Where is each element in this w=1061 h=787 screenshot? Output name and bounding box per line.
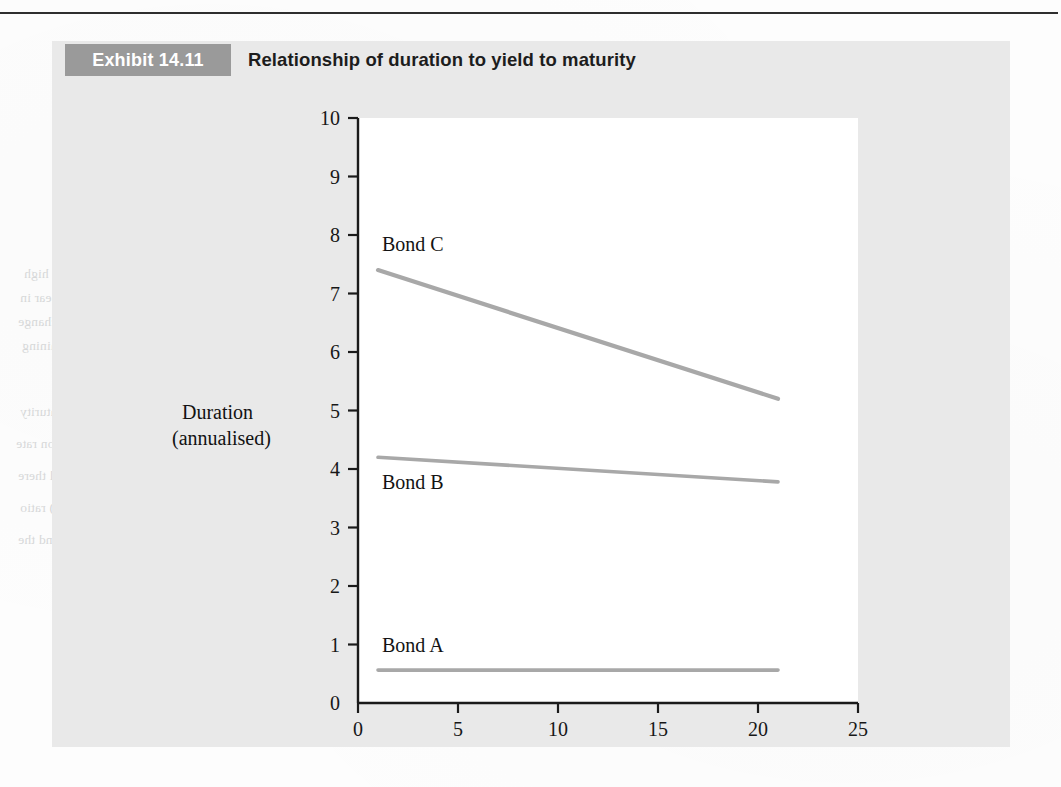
y-tick-label: 9 — [330, 166, 340, 188]
x-tick-label: 20 — [748, 718, 768, 740]
page-top-rule — [0, 12, 1058, 14]
y-axis-title-line2: (annualised) — [172, 427, 271, 450]
line-chart: 10 9 8 7 6 5 4 3 2 1 0 — [52, 79, 1010, 747]
y-tick-label: 5 — [330, 400, 340, 422]
y-tick-label: 0 — [330, 692, 340, 714]
x-tick-label: 15 — [648, 718, 668, 740]
y-tick-label: 4 — [330, 458, 340, 480]
x-tick-label: 10 — [548, 718, 568, 740]
exhibit-title: Relationship of duration to yield to mat… — [248, 44, 636, 76]
y-tick-label: 2 — [330, 575, 340, 597]
chart-axes — [358, 118, 858, 703]
x-tick-label: 0 — [353, 718, 363, 740]
series-label-bond-a: Bond A — [382, 634, 444, 656]
series-label-bond-c: Bond C — [382, 233, 444, 255]
exhibit-number-badge: Exhibit 14.11 — [65, 44, 231, 76]
x-tick-label: 25 — [848, 718, 868, 740]
y-axis-title-line1: Duration — [182, 401, 253, 423]
y-tick-label: 7 — [330, 283, 340, 305]
series-label-bond-b: Bond B — [382, 471, 444, 493]
y-tick-label: 10 — [320, 107, 340, 129]
series-line-bond-c — [378, 270, 778, 399]
y-tick-label: 1 — [330, 634, 340, 656]
x-axis-ticks — [358, 703, 858, 713]
textbook-page: the yield to maturity is high duration i… — [0, 0, 1061, 787]
exhibit-panel: Exhibit 14.11 Relationship of duration t… — [52, 41, 1010, 747]
exhibit-header: Exhibit 14.11 Relationship of duration t… — [52, 41, 1010, 79]
y-tick-label: 8 — [330, 224, 340, 246]
y-tick-label: 3 — [330, 517, 340, 539]
chart-container: 10 9 8 7 6 5 4 3 2 1 0 — [52, 79, 1010, 747]
y-tick-label: 6 — [330, 341, 340, 363]
x-tick-label: 5 — [453, 718, 463, 740]
y-axis-ticks — [348, 118, 358, 645]
